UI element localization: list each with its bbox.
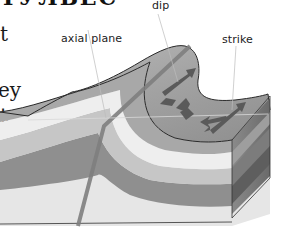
label-axial-plane: axial plane (61, 32, 122, 45)
fold-diagram: ТУЛЬЕС t ey t (0, 0, 284, 228)
label-dip: dip (152, 0, 169, 12)
label-strike: strike (222, 33, 253, 46)
